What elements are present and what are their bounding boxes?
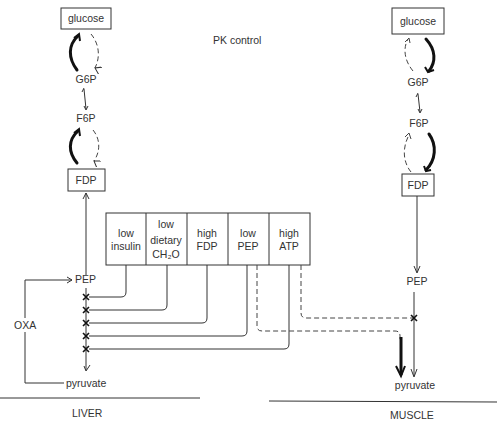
svg-text:low: low xyxy=(118,227,134,239)
diagram-title: PK control xyxy=(213,34,261,46)
svg-text:FDP: FDP xyxy=(197,240,218,252)
svg-text:insulin: insulin xyxy=(111,240,141,252)
liver-f6p-to-fdp-dashed-arrow xyxy=(93,130,99,161)
muscle-g6p-to-glucose-dashed-arrow xyxy=(405,39,413,71)
muscle-glucose-label: glucose xyxy=(400,15,436,27)
liver-f6p-label: F6P xyxy=(76,112,95,124)
muscle-fdp-to-f6p-dashed-arrow xyxy=(404,135,411,172)
muscle-baseline xyxy=(269,401,497,402)
muscle-glucose-to-g6p-thick-arrow xyxy=(426,39,434,71)
liver-g6p-to-glucose-thick-arrow xyxy=(70,36,78,70)
svg-text:dietary: dietary xyxy=(150,234,182,246)
muscle-f6p-label: F6P xyxy=(409,117,428,129)
svg-text:CH₂O: CH₂O xyxy=(152,248,179,260)
svg-text:low: low xyxy=(240,227,256,239)
muscle-g6p-label: G6P xyxy=(407,76,428,88)
control-high-fdp: high FDP xyxy=(197,227,218,252)
liver-g6p-label: G6P xyxy=(75,73,96,85)
control-low-pep: low PEP xyxy=(237,227,258,252)
svg-text:high: high xyxy=(197,227,217,239)
liver-oxa-label: OXA xyxy=(14,319,36,331)
liver-control-connectors xyxy=(89,265,289,349)
svg-text:high: high xyxy=(279,227,299,239)
control-factor-table: low insulin low dietary CH₂O high FDP lo… xyxy=(106,213,310,265)
muscle-f6p-to-fdp-thick-arrow xyxy=(426,134,434,170)
muscle-pep-label: PEP xyxy=(406,275,427,287)
muscle-pyruvate-label: pyruvate xyxy=(395,379,435,391)
liver-fdp-to-f6p-thick-arrow xyxy=(70,131,78,163)
muscle-fdp-label: FDP xyxy=(408,179,429,191)
liver-fdp-label: FDP xyxy=(76,174,97,186)
svg-text:ATP: ATP xyxy=(279,240,299,252)
svg-text:PEP: PEP xyxy=(237,240,258,252)
liver-pyruvate-label: pyruvate xyxy=(66,377,106,389)
liver-glucose-label: glucose xyxy=(68,12,104,24)
pk-control-diagram: PK control glucose G6P F6P FDP PEP OXA xyxy=(0,0,497,424)
liver-label: LIVER xyxy=(72,407,103,419)
liver-pep-label: PEP xyxy=(75,273,96,285)
muscle-label: MUSCLE xyxy=(390,409,434,421)
control-high-atp: high ATP xyxy=(279,227,299,252)
muscle-control-connectors xyxy=(257,265,413,340)
svg-text:low: low xyxy=(158,218,174,230)
liver-glucose-to-g6p-dashed-arrow xyxy=(91,34,98,68)
